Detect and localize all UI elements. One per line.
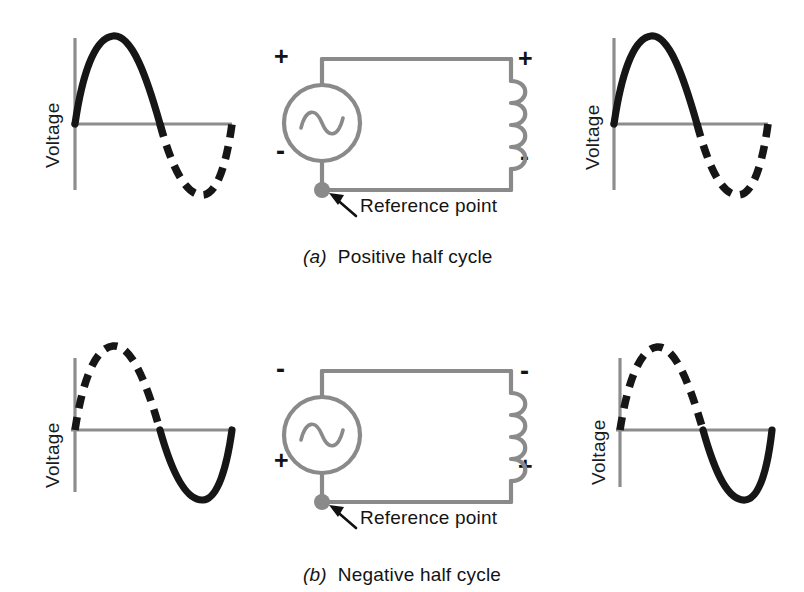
waveform-second-half-dashed <box>697 124 768 195</box>
waveform-first-half-dashed <box>75 346 160 430</box>
caption-a: (a)Positive half cycle <box>303 246 493 268</box>
inductor-symbol <box>511 81 525 169</box>
waveform-second-half-dashed <box>160 124 232 195</box>
circuit-svg-a <box>268 38 568 248</box>
waveform-plot-b-left: Voltage <box>20 340 270 540</box>
circuit-svg-b <box>268 350 568 560</box>
waveform-second-half-solid <box>160 430 232 500</box>
ac-source-sine-icon <box>301 112 343 133</box>
waveform-first-half-dashed <box>620 347 703 430</box>
waveform-svg-b-right <box>550 335 800 535</box>
waveform-plot-a-left: Voltage <box>20 20 270 220</box>
caption-b-tag: (b) <box>303 564 327 585</box>
waveform-first-half-solid <box>75 36 160 124</box>
waveform-second-half-solid <box>703 430 772 500</box>
waveform-svg-b-left <box>20 340 270 540</box>
reference-point-dot <box>314 182 330 198</box>
waveform-svg-a-left <box>20 20 270 220</box>
caption-a-text: Positive half cycle <box>338 246 493 267</box>
circuit-diagram-a: + - + - Reference point <box>268 38 568 248</box>
waveform-plot-b-right: Voltage <box>550 335 800 535</box>
waveform-first-half-solid <box>614 36 697 124</box>
waveform-plot-a-right: Voltage <box>550 20 800 220</box>
caption-b-text: Negative half cycle <box>338 564 501 585</box>
waveform-svg-a-right <box>550 20 800 220</box>
reference-point-dot <box>314 494 330 510</box>
inductor-symbol <box>511 393 525 481</box>
circuit-diagram-b: - + - + Reference point <box>268 350 568 560</box>
caption-b: (b)Negative half cycle <box>303 564 501 586</box>
caption-a-tag: (a) <box>303 246 327 267</box>
ac-source-sine-icon <box>301 424 343 445</box>
